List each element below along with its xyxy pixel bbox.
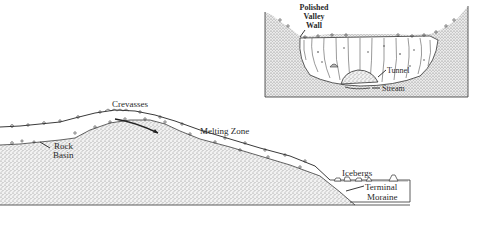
diagram-canvas (0, 0, 500, 229)
label-terminal-moraine-1: Terminal (365, 183, 397, 192)
label-crevasses: Crevasses (112, 100, 148, 109)
label-rock-basin-2: Basin (53, 151, 74, 160)
label-melting-zone: Melting Zone (200, 127, 249, 136)
label-stream: Stream (382, 84, 405, 93)
label-polished-3: Wall (297, 21, 331, 30)
label-polished-2: Valley (297, 12, 331, 21)
inset-valley-section (265, 6, 468, 97)
terminal-moraine-leader (346, 186, 364, 191)
label-terminal-moraine-2: Moraine (367, 193, 398, 202)
glacier-diagram: Crevasses Melting Zone Rock Basin Iceber… (0, 0, 500, 229)
label-tunnel: Tunnel (387, 66, 409, 75)
label-polished-1: Polished (297, 3, 331, 12)
label-icebergs: Icebergs (342, 169, 372, 178)
